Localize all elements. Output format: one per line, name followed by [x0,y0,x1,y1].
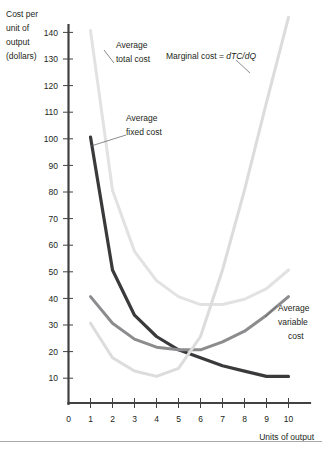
y-tick-140: 140 [44,28,58,38]
atc-label-line-1: Average [116,40,148,50]
x-tick-5: 5 [176,414,181,424]
annotation-atc: Average total cost [116,40,151,64]
leader-lines [91,50,277,317]
y-tick-60: 60 [49,240,59,250]
avc-label-line-3: cost [288,331,304,341]
atc-label-line-2: total cost [116,54,151,64]
leader-avc [265,306,277,317]
y-tick-10: 10 [49,373,59,383]
curve-average-variable-cost [91,297,289,350]
y-axis-title-line-4: (dollars) [6,51,37,61]
leader-afc [91,135,126,146]
y-tick-80: 80 [49,187,59,197]
leader-atc [104,50,114,63]
y-axis-tick-labels: 10 20 30 40 50 60 70 80 90 100 110 120 1… [44,28,58,384]
avc-label-line-2: variable [278,317,308,327]
y-tick-110: 110 [44,107,58,117]
x-tick-6: 6 [198,414,203,424]
y-tick-130: 130 [44,54,58,64]
cost-curves-figure: 10 20 30 40 50 60 70 80 90 100 110 120 1… [0,0,322,451]
annotation-avc: Average variable cost [278,303,310,341]
y-tick-40: 40 [49,294,59,304]
x-tick-3: 3 [132,414,137,424]
curve-average-total-cost [91,31,289,305]
x-tick-2: 2 [110,414,115,424]
bottom-divider [0,441,322,442]
chart-canvas: 10 20 30 40 50 60 70 80 90 100 110 120 1… [0,0,322,451]
annotation-afc: Average fixed cost [126,113,163,137]
mc-label-formula: dTC/dQ [226,51,256,61]
curve-group [91,17,289,376]
mc-label: Marginal cost = dTC/dQ [166,51,256,61]
annotation-mc: Marginal cost = dTC/dQ [166,51,256,61]
y-axis-title-line-3: output [6,37,30,47]
y-tick-30: 30 [49,320,59,330]
y-tick-100: 100 [44,134,58,144]
y-axis-title-line-2: unit of [6,23,30,33]
y-axis-title: Cost per unit of output (dollars) [6,9,38,61]
y-axis-title-line-1: Cost per [6,9,38,19]
afc-label-line-2: fixed cost [126,127,163,137]
mc-label-prefix: Marginal cost = [166,51,226,61]
leader-mc [236,60,250,73]
curve-average-fixed-cost [91,137,289,376]
y-tick-90: 90 [49,161,59,171]
y-tick-50: 50 [49,267,59,277]
y-tick-20: 20 [49,347,59,357]
y-tick-70: 70 [49,214,59,224]
x-tick-10: 10 [284,414,294,424]
x-tick-0: 0 [66,414,71,424]
avc-label-line-1: Average [278,303,310,313]
y-tick-120: 120 [44,81,58,91]
x-tick-4: 4 [154,414,159,424]
x-tick-7: 7 [220,414,225,424]
x-axis-tick-labels: 0 1 2 3 4 5 6 7 8 9 10 [66,414,293,424]
x-tick-9: 9 [264,414,269,424]
afc-label-line-1: Average [126,113,158,123]
x-tick-1: 1 [88,414,93,424]
x-tick-8: 8 [242,414,247,424]
